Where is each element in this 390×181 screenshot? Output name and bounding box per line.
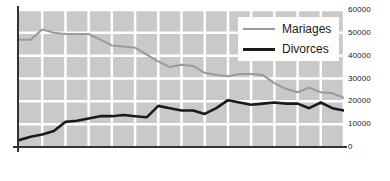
y-tick-label: 20000 — [348, 97, 371, 105]
chart-legend: Mariages Divorces — [238, 17, 339, 61]
legend-item-divorces: Divorces — [243, 39, 339, 59]
legend-label-divorces: Divorces — [282, 43, 329, 56]
legend-item-mariages: Mariages — [243, 19, 339, 39]
x-axis-tick-labels: 1970197219741976197819801982198419861988… — [0, 148, 390, 181]
y-axis-tick-labels: 0100002000030000400005000060000 — [348, 0, 390, 160]
y-tick-label: 60000 — [348, 6, 371, 14]
y-tick-label: 40000 — [348, 52, 371, 60]
y-axis-line — [17, 6, 19, 152]
y-tick-label: 30000 — [348, 75, 371, 83]
legend-label-mariages: Mariages — [282, 23, 331, 36]
line-chart: 0100002000030000400005000060000 19701972… — [0, 0, 390, 181]
legend-line-icon-mariages — [243, 28, 275, 30]
y-tick-label: 50000 — [348, 29, 371, 37]
y-tick-label: 10000 — [348, 120, 371, 128]
legend-line-icon-divorces — [243, 48, 275, 51]
